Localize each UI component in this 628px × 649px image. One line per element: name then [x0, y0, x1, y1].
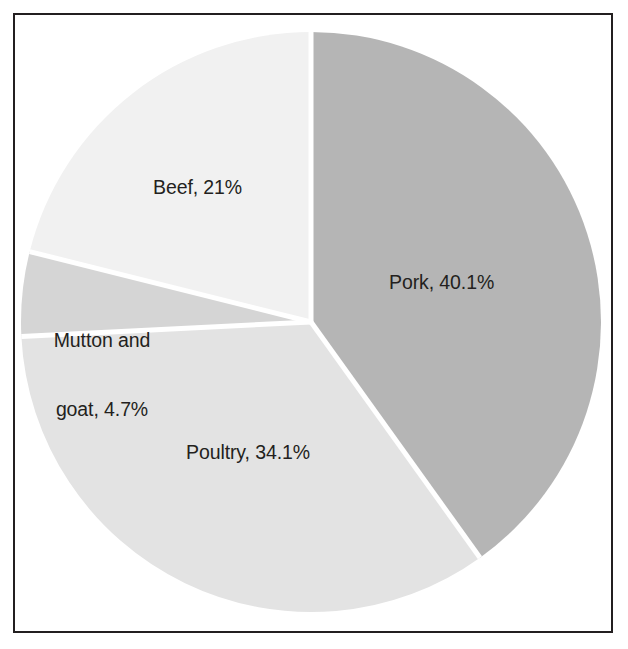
pie-label-poultry: Poultry, 34.1% — [186, 441, 310, 464]
pie-label-mutton-and-goat: Mutton and goat, 4.7% — [29, 283, 175, 467]
pie-label-mutton-line-1: Mutton and — [29, 329, 175, 352]
pie-label-pork: Pork, 40.1% — [389, 271, 494, 294]
pie-chart-plot-area: Pork, 40.1% Beef, 21% Mutton and goat, 4… — [0, 0, 628, 649]
pie-label-mutton-line-2: goat, 4.7% — [29, 398, 175, 421]
pie-label-beef: Beef, 21% — [153, 176, 242, 199]
figure-root: Pork, 40.1% Beef, 21% Mutton and goat, 4… — [0, 0, 628, 649]
